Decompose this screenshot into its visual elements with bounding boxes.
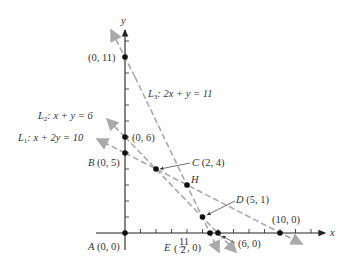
pointer-C	[160, 163, 190, 169]
label-C: C (2, 4)	[192, 157, 225, 169]
label-H: H	[190, 174, 200, 185]
point-D	[200, 214, 206, 220]
point-H	[184, 182, 190, 188]
point-C	[153, 166, 159, 172]
label-10-0: (10, 0)	[272, 214, 300, 226]
point-A	[122, 230, 128, 236]
label-L3: L3: 2x + y = 11	[147, 88, 212, 101]
label-E: E ( 11 2 , 0)	[163, 236, 202, 255]
point-0-11	[122, 54, 128, 60]
label-A: A (0, 0)	[87, 241, 120, 253]
point-E	[207, 230, 213, 236]
point-B	[122, 150, 128, 156]
label-0-6: (0, 6)	[132, 132, 155, 144]
x-axis-label: x	[329, 227, 335, 238]
label-0-11: (0, 11)	[88, 52, 116, 64]
svg-text:(: (	[174, 243, 178, 255]
label-B: B (0, 5)	[88, 157, 120, 169]
svg-text:2: 2	[181, 244, 186, 255]
pointer-6-0	[222, 236, 235, 243]
label-L1: L1: x + 2y = 10	[17, 132, 84, 145]
feasible-region-diagram: y x L3: 2x + y = 11 L2: x + y = 6 L1: x …	[0, 0, 351, 277]
line-L1	[97, 139, 302, 244]
svg-text:, 0): , 0)	[187, 242, 202, 254]
point-6-0	[215, 230, 221, 236]
label-D: D (5, 1)	[235, 194, 269, 206]
point-0-6	[122, 134, 128, 140]
label-6-0: (6, 0)	[238, 238, 261, 250]
y-axis-label: y	[120, 15, 126, 26]
label-L2: L2: x + y = 6	[37, 110, 93, 123]
point-10-0	[277, 230, 283, 236]
svg-text:E: E	[163, 242, 171, 253]
